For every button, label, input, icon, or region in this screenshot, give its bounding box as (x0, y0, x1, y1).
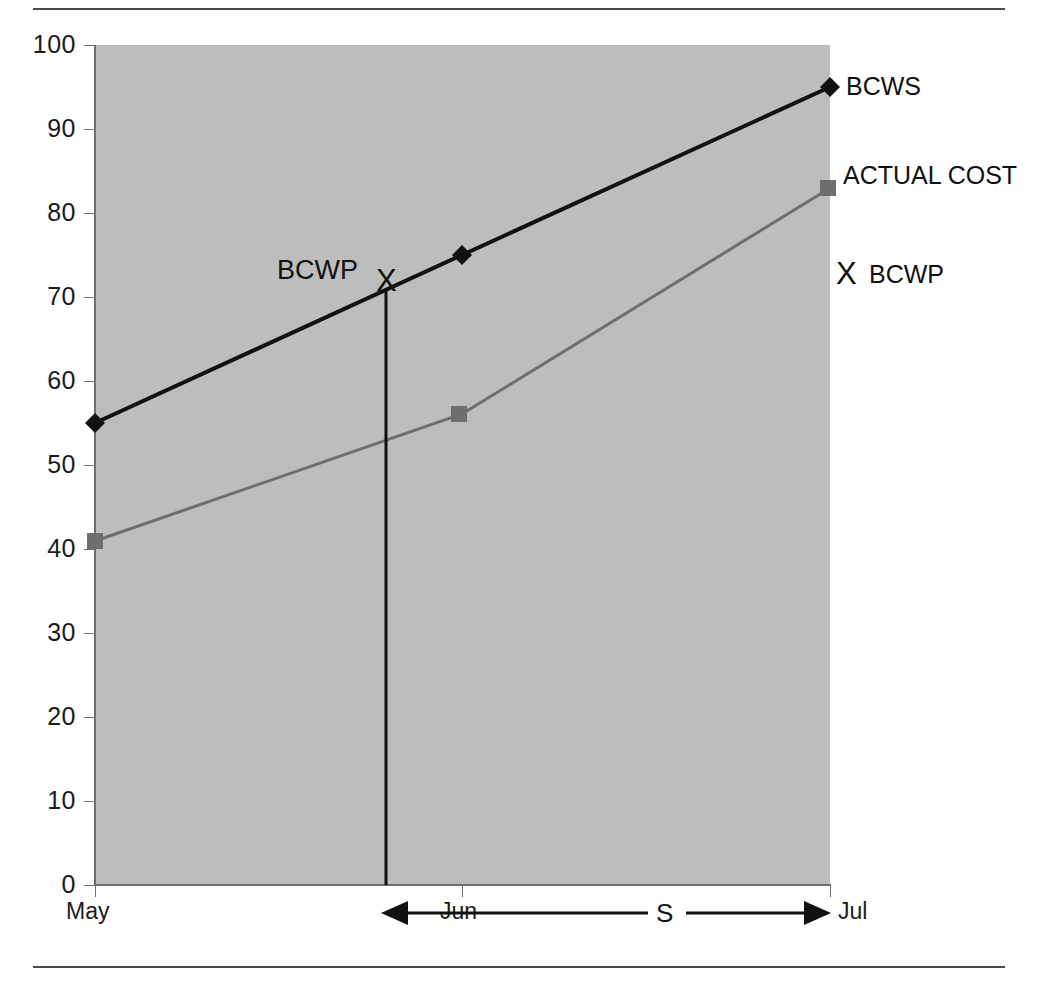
y-tick-10 (84, 801, 95, 802)
y-tick-label-40-text: 40 (0, 536, 76, 561)
y-tick-30 (84, 633, 95, 634)
legend-marker-bcwp-x: X (836, 258, 857, 289)
y-tick-90 (84, 129, 95, 130)
y-tick-label-0: 0 (0, 872, 76, 897)
y-tick-label-80-text: 80 (0, 200, 76, 225)
y-tick-label-60-text: 60 (0, 368, 76, 393)
y-tick-label-100: 100 (0, 32, 76, 57)
y-tick-label-100-text: 100 (0, 32, 76, 57)
x-tick-label-jul: Jul (838, 898, 867, 924)
x-tick-label-may: May (66, 898, 109, 924)
span-arrow-right-head (804, 901, 831, 925)
plot-area-background (95, 45, 830, 885)
y-tick-70 (84, 297, 95, 298)
y-tick-label-90: 90 (0, 116, 76, 141)
y-tick-50 (84, 465, 95, 466)
y-tick-label-30-text: 30 (0, 620, 76, 645)
bcwp-inline-label: BCWP (277, 255, 358, 285)
x-tick-label-jun: Jun (440, 898, 477, 924)
y-tick-label-10: 10 (0, 788, 76, 813)
x-tick-may (95, 885, 96, 897)
y-tick-label-20: 20 (0, 704, 76, 729)
y-tick-label-70: 70 (0, 284, 76, 309)
y-tick-20 (84, 717, 95, 718)
legend-label-actual-cost: ACTUAL COST (843, 162, 1017, 189)
y-tick-100 (84, 45, 95, 46)
span-arrow-label-s: S (656, 899, 673, 927)
y-tick-label-40: 40 (0, 536, 76, 561)
y-tick-80 (84, 213, 95, 214)
y-tick-0 (84, 885, 95, 886)
y-tick-label-60: 60 (0, 368, 76, 393)
y-tick-label-80: 80 (0, 200, 76, 225)
bcwp-x-marker: X (376, 265, 397, 296)
y-tick-label-30: 30 (0, 620, 76, 645)
legend-label-bcws: BCWS (846, 73, 921, 100)
x-tick-jul (830, 885, 831, 897)
x-tick-jun (462, 885, 463, 897)
y-tick-label-0-text: 0 (0, 872, 76, 897)
y-tick-label-50-text: 50 (0, 452, 76, 477)
y-tick-label-10-text: 10 (0, 788, 76, 813)
y-tick-label-20-text: 20 (0, 704, 76, 729)
y-tick-label-50: 50 (0, 452, 76, 477)
legend-label-bcwp: BCWP (869, 261, 944, 288)
span-arrow-left-head (381, 901, 408, 925)
y-tick-60 (84, 381, 95, 382)
y-tick-label-90-text: 90 (0, 116, 76, 141)
y-tick-40 (84, 549, 95, 550)
y-tick-label-70-text: 70 (0, 284, 76, 309)
earned-value-chart: 100 90 80 70 60 50 40 30 20 10 0 May Jun… (0, 0, 1040, 1006)
